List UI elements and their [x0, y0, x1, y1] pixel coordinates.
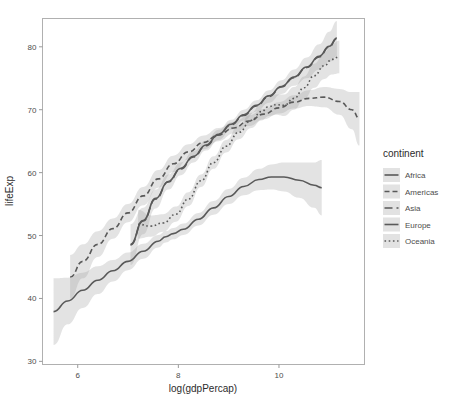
legend-label: Oceania	[405, 237, 435, 246]
y-tick-label: 70	[28, 106, 37, 115]
y-tick-label: 80	[28, 43, 37, 52]
legend-label: Asia	[405, 204, 421, 213]
chart-container: 6810 304050607080 log(gdpPercap) lifeExp…	[0, 0, 458, 409]
x-tick-label: 10	[275, 371, 284, 380]
x-axis-title: log(gdpPercap)	[169, 383, 237, 394]
y-tick-label: 60	[28, 169, 37, 178]
x-tick-label: 8	[176, 371, 181, 380]
legend-label: Europe	[405, 221, 431, 230]
legend-item-europe[interactable]: Europe	[383, 218, 431, 232]
y-tick-label: 50	[28, 232, 37, 241]
legend-item-oceania[interactable]: Oceania	[383, 234, 435, 248]
y-axis-title: lifeExp	[4, 176, 15, 206]
legend-label: Africa	[405, 171, 426, 180]
y-tick-label: 40	[28, 294, 37, 303]
legend-label: Americas	[405, 188, 438, 197]
x-tick-label: 6	[75, 371, 80, 380]
y-tick-label: 30	[28, 357, 37, 366]
legend-title: continent	[383, 148, 424, 159]
legend-item-africa[interactable]: Africa	[383, 168, 426, 182]
legend-item-americas[interactable]: Americas	[383, 185, 438, 199]
scatter-smooth-plot: 6810 304050607080 log(gdpPercap) lifeExp…	[0, 0, 458, 409]
